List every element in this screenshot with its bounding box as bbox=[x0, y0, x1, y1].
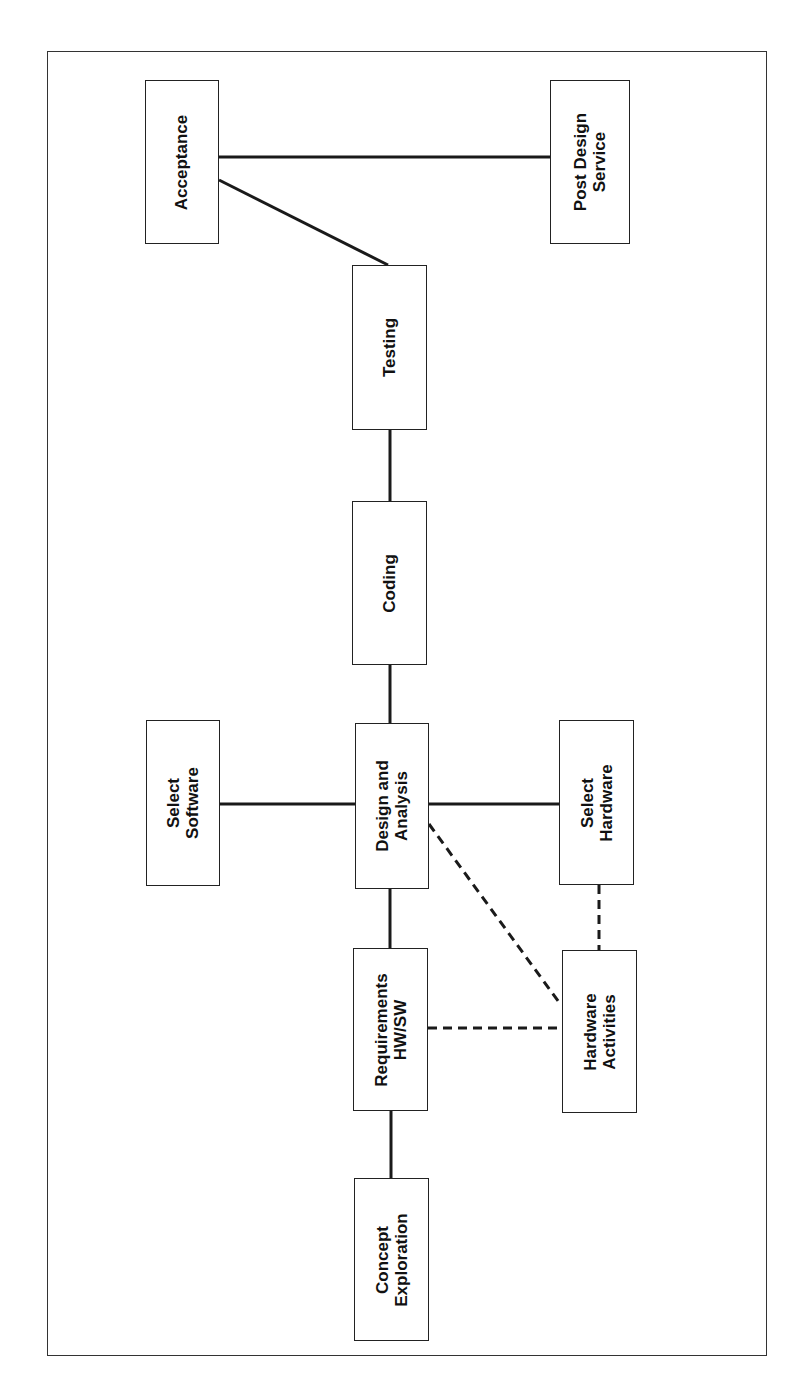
node-label: Post Design Service bbox=[571, 113, 609, 211]
node-requirements-hw-sw: Requirements HW/SW bbox=[353, 948, 428, 1111]
node-coding: Coding bbox=[352, 501, 427, 665]
connector-design-and-analysis-hardware-activities bbox=[429, 824, 561, 1005]
node-select-hardware: Select Hardware bbox=[559, 720, 634, 885]
node-testing: Testing bbox=[352, 265, 427, 430]
node-label: Select Hardware bbox=[578, 764, 616, 841]
node-label: Select Software bbox=[164, 767, 202, 839]
node-label: Testing bbox=[380, 318, 399, 377]
node-label: Concept Exploration bbox=[373, 1213, 411, 1307]
node-acceptance: Acceptance bbox=[145, 80, 219, 244]
node-label: Hardware Activities bbox=[581, 993, 619, 1070]
node-hardware-activities: Hardware Activities bbox=[562, 950, 637, 1113]
connector-acceptance-testing bbox=[219, 180, 388, 265]
node-post-design-service: Post Design Service bbox=[550, 80, 630, 244]
node-select-software: Select Software bbox=[146, 720, 220, 886]
node-label: Acceptance bbox=[173, 114, 192, 209]
node-label: Design and Analysis bbox=[373, 760, 411, 852]
node-concept-exploration: Concept Exploration bbox=[354, 1178, 429, 1341]
node-label: Coding bbox=[380, 554, 399, 613]
node-label: Requirements HW/SW bbox=[372, 973, 410, 1086]
node-design-and-analysis: Design and Analysis bbox=[355, 723, 429, 889]
